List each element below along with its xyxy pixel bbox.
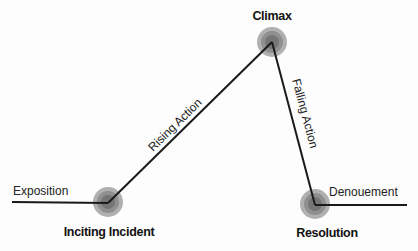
climax-label: Climax: [252, 9, 292, 23]
exposition-label: Exposition: [13, 184, 68, 198]
inciting-incident-label: Inciting Incident: [64, 225, 156, 239]
diagram-canvas: Exposition Rising Action Falling Action …: [0, 0, 418, 251]
plot-diagram: Exposition Rising Action Falling Action …: [0, 0, 418, 251]
denouement-label: Denouement: [329, 185, 398, 199]
exposition-line: [12, 202, 108, 203]
falling-action-label: Falling Action: [289, 77, 321, 150]
rising-action-label: Rising Action: [145, 96, 204, 155]
resolution-label: Resolution: [296, 226, 358, 240]
rising-action-line: [108, 42, 272, 203]
